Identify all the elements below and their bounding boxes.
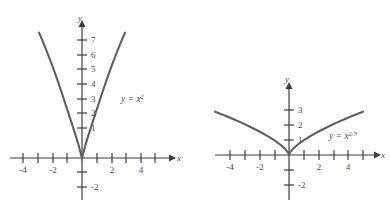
left-curve-equation-label: y = x2: [120, 93, 145, 105]
right-x-tick-label-neg2: -2: [256, 162, 264, 172]
left-x-tick-label-2: 2: [110, 165, 115, 175]
right-curve-equation-label: y = x2/3: [328, 130, 358, 142]
right-y-tick-label-2: 2: [298, 120, 303, 130]
left-y-tick-label-4: 4: [91, 79, 96, 89]
right-curve-equation-base: y = x: [328, 131, 349, 141]
right-y-axis: [284, 88, 294, 200]
left-y-tick-label-1: 1: [91, 123, 96, 133]
left-x-tick-label-neg4: -4: [19, 165, 27, 175]
left-graph-parabola: x y -4 -2 2 4 7 6 5 4 3 2 1 -2 y = x2: [10, 13, 181, 200]
left-x-axis-label: x: [176, 153, 181, 163]
left-curve-equation-base: y = x: [120, 94, 141, 104]
right-x-axis-label: x: [380, 150, 385, 160]
figure-two-graphs: x y -4 -2 2 4 7 6 5 4 3 2 1 -2 y = x2: [0, 0, 390, 212]
right-curve-equation-exponent: 2/3: [349, 130, 358, 137]
left-y-tick-label-7: 7: [91, 35, 96, 45]
right-x-axis: [215, 150, 375, 160]
right-x-tick-label-2: 2: [317, 162, 322, 172]
right-y-tick-label-1: 1: [298, 135, 303, 145]
right-x-tick-label-4: 4: [346, 162, 351, 172]
left-x-axis: [10, 153, 170, 163]
left-y-tick-label-2: 2: [91, 108, 96, 118]
right-x-tick-label-neg4: -4: [226, 162, 234, 172]
right-y-tick-label-neg2: -2: [298, 180, 306, 190]
left-x-tick-label-4: 4: [139, 165, 144, 175]
left-y-tick-label-neg2: -2: [91, 182, 99, 192]
right-graph-two-thirds-power: x y -4 -2 2 4 3 2 1 -2 y = x2/3: [215, 74, 385, 200]
left-y-tick-label-6: 6: [91, 50, 96, 60]
left-x-tick-label-neg2: -2: [49, 165, 57, 175]
left-y-tick-label-5: 5: [91, 64, 96, 74]
right-y-axis-label: y: [284, 74, 289, 84]
graphs-canvas: x y -4 -2 2 4 7 6 5 4 3 2 1 -2 y = x2: [0, 0, 390, 212]
left-y-axis: [77, 26, 87, 200]
left-curve-equation-exponent: 2: [141, 93, 145, 100]
left-y-tick-label-3: 3: [91, 94, 96, 104]
right-y-tick-label-3: 3: [298, 105, 303, 115]
left-y-axis-label: y: [77, 13, 82, 23]
